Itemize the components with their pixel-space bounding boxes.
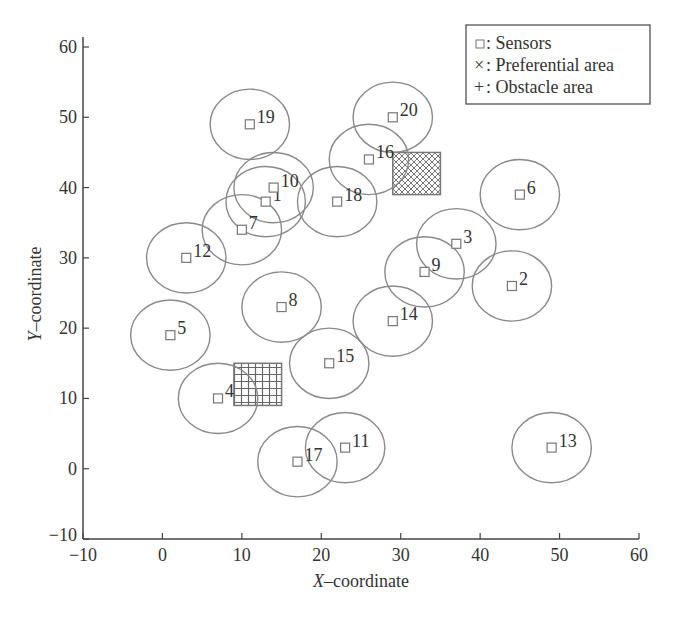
sensor-label: 11 (352, 431, 369, 451)
y-tick-label: 0 (68, 459, 77, 479)
sensor-3: 3 (452, 227, 473, 249)
y-tick-label: 30 (59, 248, 77, 268)
sensor-label: 15 (336, 346, 354, 366)
sensor-label: 10 (281, 171, 299, 191)
sensor-label: 6 (527, 178, 536, 198)
axes-layer: −100102030405060−100102030405060X–coordi… (25, 37, 648, 591)
sensor-label: 9 (432, 255, 441, 275)
sensor-14: 14 (388, 304, 418, 326)
legend-label: : Obstacle area (486, 77, 593, 97)
sensor-square-icon (277, 303, 286, 312)
x-axis-title: X–coordinate (312, 571, 409, 591)
sensor-square-icon (420, 267, 429, 276)
sensor-15: 15 (325, 346, 355, 368)
sensor-square-icon (293, 457, 302, 466)
sensor-square-icon (364, 155, 373, 164)
sensor-label: 4 (225, 381, 234, 401)
legend-label: : Sensors (486, 33, 552, 53)
sensor-label: 7 (249, 213, 258, 233)
y-tick-label: −10 (49, 525, 77, 545)
sensor-label: 14 (400, 304, 418, 324)
sensor-6: 6 (515, 178, 536, 200)
sensor-square-icon (515, 190, 524, 199)
sensor-20: 20 (388, 100, 418, 122)
regions-layer (234, 152, 441, 405)
legend: : Sensors×: Preferential area+: Obstacle… (466, 25, 650, 104)
sensor-label: 12 (193, 241, 211, 261)
sensor-square-icon (452, 239, 461, 248)
sensor-deployment-chart: 1234567891011121314151617181920 −1001020… (0, 0, 677, 620)
sensor-square-icon (388, 317, 397, 326)
sensor-square-icon (237, 225, 246, 234)
sensor-label: 8 (289, 290, 298, 310)
sensor-square-icon (333, 197, 342, 206)
sensor-19: 19 (245, 107, 274, 129)
sensor-18: 18 (333, 185, 363, 207)
plus-icon: + (474, 77, 484, 97)
y-axis-title: Y–coordinate (25, 247, 45, 342)
sensor-square-icon (388, 113, 397, 122)
sensor-9: 9 (420, 255, 441, 277)
cross-icon: × (474, 55, 484, 75)
x-tick-label: 30 (392, 545, 410, 565)
sensor-13: 13 (547, 431, 577, 453)
legend-entry: ×: Preferential area (474, 55, 614, 75)
sensor-4: 4 (214, 381, 235, 403)
y-tick-label: 10 (59, 388, 77, 408)
sensors-layer: 1234567891011121314151617181920 (166, 100, 577, 466)
sensor-square-icon (476, 40, 484, 48)
sensor-square-icon (507, 281, 516, 290)
sensor-label: 3 (463, 227, 472, 247)
sensor-square-icon (547, 443, 556, 452)
x-tick-label: 10 (233, 545, 251, 565)
sensor-square-icon (245, 120, 254, 129)
sensor-label: 5 (177, 318, 186, 338)
sensor-2: 2 (507, 269, 528, 291)
legend-entry: +: Obstacle area (474, 77, 593, 97)
sensor-label: 18 (344, 185, 362, 205)
x-tick-label: 50 (551, 545, 569, 565)
x-tick-label: 20 (312, 545, 330, 565)
sensor-square-icon (182, 253, 191, 262)
x-tick-label: −10 (69, 545, 97, 565)
sensor-7: 7 (237, 213, 258, 235)
sensor-8: 8 (277, 290, 298, 312)
sensor-square-icon (325, 359, 334, 368)
x-tick-label: 0 (158, 545, 167, 565)
legend-label: : Preferential area (486, 55, 614, 75)
sensor-17: 17 (293, 445, 323, 467)
sensor-10: 10 (269, 171, 299, 193)
x-tick-label: 60 (630, 545, 648, 565)
y-tick-label: 60 (59, 37, 77, 57)
sensor-square-icon (214, 394, 223, 403)
sensor-label: 2 (519, 269, 528, 289)
sensor-label: 19 (257, 107, 275, 127)
y-tick-label: 40 (59, 178, 77, 198)
sensor-square-icon (341, 443, 350, 452)
sensor-12: 12 (182, 241, 212, 263)
sensor-label: 16 (376, 142, 394, 162)
sensor-square-icon (269, 183, 278, 192)
x-tick-label: 40 (471, 545, 489, 565)
sensor-label: 20 (400, 100, 418, 120)
sensor-label: 13 (559, 431, 577, 451)
legend-entry: : Sensors (476, 33, 552, 53)
y-tick-label: 50 (59, 107, 77, 127)
sensor-square-icon (261, 197, 270, 206)
sensor-11: 11 (341, 431, 370, 453)
preferential-area (393, 152, 441, 194)
sensor-label: 17 (304, 445, 322, 465)
y-tick-label: 20 (59, 318, 77, 338)
sensor-5: 5 (166, 318, 187, 340)
sensor-square-icon (166, 331, 175, 340)
